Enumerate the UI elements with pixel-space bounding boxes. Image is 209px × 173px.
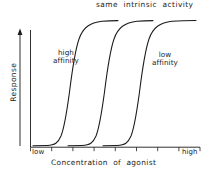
x-axis-ticks — [31, 147, 201, 151]
curve-low-affinity — [103, 20, 196, 145]
dose-response-figure: same intrinsic activity high affinity lo… — [0, 0, 209, 173]
annotation-high-affinity: high affinity — [44, 49, 88, 65]
figure-title: same intrinsic activity — [96, 1, 193, 9]
x-axis-title: Concentration of agonist — [51, 159, 156, 167]
x-axis-min-label: low — [32, 149, 44, 157]
y-axis-title: Response — [10, 52, 19, 112]
y-axis-arrow-icon — [18, 29, 23, 147]
x-axis-max-label: high — [182, 149, 198, 157]
annotation-low-affinity: low affinity — [145, 51, 185, 67]
